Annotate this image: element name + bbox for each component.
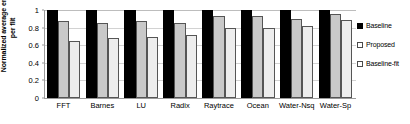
bar-group bbox=[238, 10, 277, 98]
bar-group bbox=[44, 10, 83, 98]
bar bbox=[174, 23, 185, 98]
bar-chart: Normalized average energy per flit 00.20… bbox=[0, 0, 410, 124]
bar bbox=[213, 16, 224, 98]
x-axis-tick-label: Ocean bbox=[247, 101, 269, 110]
legend-swatch-icon bbox=[357, 42, 363, 48]
bar bbox=[241, 10, 252, 98]
x-axis-tick-label: Water-Sp bbox=[320, 101, 351, 110]
bar bbox=[319, 10, 330, 98]
legend-item[interactable]: Baseline-fit bbox=[357, 54, 410, 73]
bar bbox=[202, 10, 213, 98]
y-axis-tick-label: 0.4 bbox=[29, 58, 39, 67]
y-axis-tick-label: 0.2 bbox=[29, 76, 39, 85]
bar-group bbox=[83, 10, 122, 98]
bar bbox=[69, 41, 80, 98]
y-axis-tick-label: 0.8 bbox=[29, 23, 39, 32]
bar bbox=[86, 10, 97, 98]
y-axis-tick-labels: 00.20.40.60.81 bbox=[0, 0, 42, 124]
x-axis-tick-label: Water-Nsq bbox=[279, 101, 315, 110]
bar bbox=[136, 21, 147, 98]
x-axis-tick-label: LU bbox=[136, 101, 146, 110]
bar-group bbox=[277, 10, 316, 98]
bar bbox=[124, 10, 135, 98]
bar bbox=[252, 16, 263, 98]
bar bbox=[280, 10, 291, 98]
bar bbox=[186, 35, 197, 98]
bar-group bbox=[122, 10, 161, 98]
bars-layer bbox=[44, 10, 355, 98]
chart-legend: BaselineProposedBaseline-fit bbox=[357, 16, 410, 73]
x-axis-tick-labels: FFTBarnesLURadixRaytraceOceanWater-NsqWa… bbox=[44, 101, 355, 117]
legend-swatch-icon bbox=[357, 23, 363, 29]
bar bbox=[147, 37, 158, 98]
legend-item[interactable]: Proposed bbox=[357, 35, 410, 54]
bar bbox=[108, 38, 119, 98]
bar bbox=[341, 20, 352, 98]
legend-item[interactable]: Baseline bbox=[357, 16, 410, 35]
y-axis-tick-label: 0.6 bbox=[29, 41, 39, 50]
bar bbox=[263, 28, 274, 98]
bar-group bbox=[200, 10, 239, 98]
bar bbox=[225, 28, 236, 98]
x-axis-tick-label: Radix bbox=[170, 101, 189, 110]
bar bbox=[330, 14, 341, 98]
bar bbox=[58, 21, 69, 98]
bar bbox=[47, 10, 58, 98]
y-axis-tick-label: 0 bbox=[35, 94, 39, 103]
bar bbox=[163, 10, 174, 98]
bar bbox=[97, 23, 108, 98]
legend-label: Baseline-fit bbox=[366, 60, 399, 67]
x-axis-tick-label: Barnes bbox=[90, 101, 114, 110]
x-axis-tick-label: FFT bbox=[57, 101, 71, 110]
legend-label: Baseline bbox=[366, 22, 392, 29]
x-axis-tick-label: Raytrace bbox=[204, 101, 234, 110]
bar bbox=[302, 26, 313, 98]
bar-group bbox=[161, 10, 200, 98]
legend-swatch-icon bbox=[357, 61, 363, 67]
bar-group bbox=[316, 10, 355, 98]
bar bbox=[291, 19, 302, 98]
y-axis-tick-label: 1 bbox=[35, 6, 39, 15]
legend-label: Proposed bbox=[366, 41, 395, 48]
